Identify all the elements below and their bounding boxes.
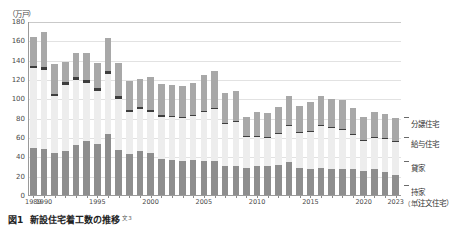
y-axis-tick-label: 100 bbox=[12, 95, 25, 103]
x-axis-tick-mark bbox=[76, 196, 77, 198]
x-axis-tick-label: 2010 bbox=[249, 198, 266, 206]
x-axis-tick-mark bbox=[172, 196, 173, 198]
y-axis-tick-label: 20 bbox=[16, 173, 25, 181]
x-axis-tick-mark bbox=[193, 196, 194, 198]
x-axis-tick-mark bbox=[374, 196, 375, 198]
y-axis-tick-label: 120 bbox=[12, 76, 25, 84]
caption-reference-mark: 文3 bbox=[122, 214, 132, 222]
x-axis-ticks: 198919901995200020052010201520202023 bbox=[28, 196, 401, 208]
legend-item-sublabel: （注文住宅） bbox=[411, 199, 453, 209]
x-axis-tick-mark bbox=[215, 196, 216, 198]
legend-item-1: 給与住宅 bbox=[404, 132, 439, 151]
legend-item-0: 分譲住宅 bbox=[404, 112, 439, 131]
y-axis-tick-label: 40 bbox=[16, 153, 25, 161]
x-axis-tick-mark bbox=[278, 196, 279, 198]
x-axis-tick-mark bbox=[183, 196, 184, 198]
y-axis-tick-label: 80 bbox=[16, 115, 25, 123]
legend-item-label: 分譲住宅 bbox=[411, 120, 439, 129]
x-axis-tick-mark bbox=[236, 196, 237, 198]
plot-area: 020406080100120140160180 bbox=[28, 22, 401, 196]
x-axis-tick-mark bbox=[332, 196, 333, 198]
figure-caption: 図1 新設住宅着工数の推移 文3 bbox=[8, 213, 132, 226]
x-axis-tick-mark bbox=[225, 196, 226, 198]
x-axis-tick-label: 1990 bbox=[36, 198, 53, 206]
caption-number: 図1 bbox=[8, 213, 23, 226]
legend-leader-line bbox=[404, 117, 409, 118]
caption-title: 新設住宅着工数の推移 bbox=[30, 213, 120, 226]
y-axis-tick-label: 60 bbox=[16, 134, 25, 142]
x-axis-tick-mark bbox=[289, 196, 290, 198]
x-axis-tick-label: 2015 bbox=[302, 198, 319, 206]
x-axis-tick-mark bbox=[55, 196, 56, 198]
legend-leader-line bbox=[404, 137, 409, 138]
x-axis-tick-mark bbox=[353, 196, 354, 198]
x-axis-tick-mark bbox=[129, 196, 130, 198]
legend-leader-line bbox=[404, 161, 409, 162]
x-axis-tick-label: 2023 bbox=[387, 198, 404, 206]
legend-item-label: 給与住宅 bbox=[411, 140, 439, 149]
plot-frame bbox=[28, 22, 401, 196]
x-axis-tick-mark bbox=[321, 196, 322, 198]
x-axis-tick-mark bbox=[161, 196, 162, 198]
x-axis-tick-label: 2000 bbox=[142, 198, 159, 206]
legend-item-label: 持家 bbox=[411, 188, 425, 197]
x-axis-tick-label: 2005 bbox=[196, 198, 213, 206]
legend-leader-line bbox=[404, 185, 409, 186]
x-axis-tick-mark bbox=[108, 196, 109, 198]
x-axis-tick-mark bbox=[342, 196, 343, 198]
x-axis-tick-mark bbox=[87, 196, 88, 198]
legend-item-3: 持家（注文住宅） bbox=[404, 180, 453, 209]
legend-item-2: 貸家 bbox=[404, 156, 425, 175]
x-axis-tick-label: 2020 bbox=[355, 198, 372, 206]
x-axis-tick-mark bbox=[385, 196, 386, 198]
x-axis-tick-mark bbox=[140, 196, 141, 198]
y-axis-tick-label: 180 bbox=[12, 18, 25, 26]
x-axis-tick-mark bbox=[268, 196, 269, 198]
x-axis-tick-mark bbox=[119, 196, 120, 198]
x-axis-tick-mark bbox=[246, 196, 247, 198]
housing-starts-figure: （万戸） 020406080100120140160180 1989199019… bbox=[0, 0, 467, 235]
y-axis-tick-label: 140 bbox=[12, 57, 25, 65]
x-axis-tick-mark bbox=[65, 196, 66, 198]
y-axis-tick-label: 160 bbox=[12, 37, 25, 45]
x-axis-tick-mark bbox=[300, 196, 301, 198]
legend-item-label: 貸家 bbox=[411, 164, 425, 173]
x-axis-tick-label: 1995 bbox=[89, 198, 106, 206]
